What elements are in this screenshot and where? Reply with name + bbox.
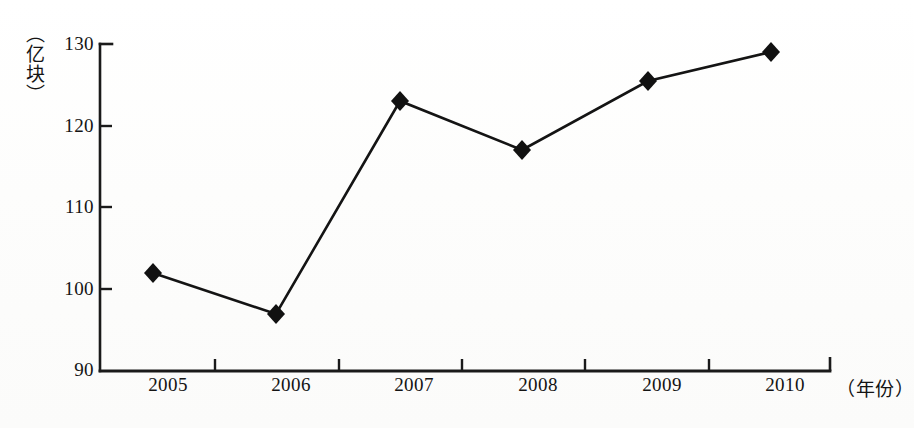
plot-area bbox=[0, 0, 914, 428]
data-series-line bbox=[153, 52, 771, 314]
data-point-2005 bbox=[144, 263, 162, 283]
data-point-markers bbox=[144, 42, 780, 324]
data-point-2009 bbox=[639, 71, 657, 91]
data-point-2008 bbox=[513, 140, 531, 160]
data-point-2006 bbox=[267, 304, 285, 324]
x-axis bbox=[100, 357, 830, 371]
data-point-2007 bbox=[391, 91, 409, 111]
y-axis bbox=[100, 44, 112, 371]
data-point-2010 bbox=[762, 42, 780, 62]
line-chart: （亿块） 130 120 110 100 90 2005 2006 2007 2… bbox=[0, 0, 914, 428]
